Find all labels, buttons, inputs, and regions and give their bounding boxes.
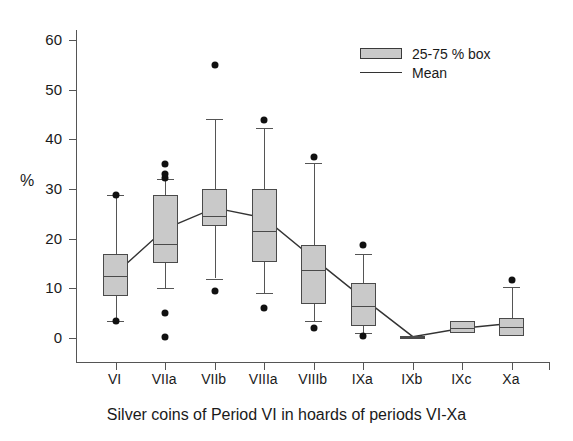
legend-entry-mean: Mean xyxy=(360,63,491,82)
x-axis-tick xyxy=(413,362,414,370)
x-axis-tick-label: IXb xyxy=(401,372,422,386)
y-axis-tick-label: 0 xyxy=(0,330,62,345)
median-line xyxy=(499,327,524,328)
x-axis-end-tick xyxy=(549,362,550,370)
x-axis-tick xyxy=(215,362,216,370)
x-axis-tick-label: Xa xyxy=(502,372,519,386)
chart-canvas: % 25-75 % box Mean Silver coins of Perio… xyxy=(0,0,573,441)
y-axis-tick-label: 20 xyxy=(0,231,62,246)
x-axis-tick-label: VIIa xyxy=(152,372,177,386)
legend-line-swatch-icon xyxy=(360,72,402,73)
x-axis-tick-label: VI xyxy=(108,372,121,386)
x-axis-tick xyxy=(512,362,513,370)
y-axis-tick-label: 50 xyxy=(0,82,62,97)
x-axis-tick xyxy=(165,362,166,370)
legend: 25-75 % box Mean xyxy=(360,44,491,82)
whisker-upper xyxy=(512,287,513,318)
x-axis-tick-label: VIIIb xyxy=(298,372,327,386)
x-axis-tick xyxy=(264,362,265,370)
x-axis-tick xyxy=(462,362,463,370)
x-axis-tick-label: VIIIa xyxy=(249,372,278,386)
legend-label-box: 25-75 % box xyxy=(412,46,491,62)
legend-label-mean: Mean xyxy=(412,65,447,81)
y-axis-tick xyxy=(69,239,77,240)
legend-box-swatch-icon xyxy=(360,48,402,59)
chart-caption: Silver coins of Period VI in hoards of p… xyxy=(0,406,573,424)
y-axis-tick xyxy=(69,40,77,41)
x-axis-tick xyxy=(314,362,315,370)
outlier-point xyxy=(508,276,515,283)
x-axis-tick xyxy=(363,362,364,370)
y-axis-tick xyxy=(69,90,77,91)
x-axis-tick-label: VIIb xyxy=(201,372,226,386)
x-axis-tick-label: IXa xyxy=(352,372,373,386)
y-axis-tick-label: 40 xyxy=(0,131,62,146)
legend-entry-box: 25-75 % box xyxy=(360,44,491,63)
y-axis-tick xyxy=(69,189,77,190)
y-axis-tick xyxy=(69,288,77,289)
y-axis-tick-label: 10 xyxy=(0,280,62,295)
x-axis-tick-label: IXc xyxy=(451,372,471,386)
y-axis-tick xyxy=(69,338,77,339)
whisker-cap-upper xyxy=(503,287,520,288)
y-axis-tick-label: 60 xyxy=(0,32,62,47)
x-axis-tick xyxy=(116,362,117,370)
y-axis-tick xyxy=(69,139,77,140)
y-axis-tick-label: 30 xyxy=(0,181,62,196)
